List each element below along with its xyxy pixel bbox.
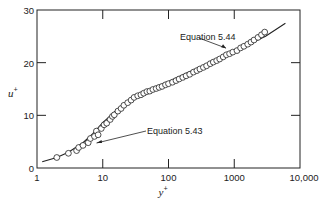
y-tick-labels: 0102030: [23, 5, 34, 174]
svg-text:y+: y+: [158, 185, 168, 198]
data-point: [262, 29, 268, 35]
y-tick-label: 10: [23, 110, 34, 121]
x-tick-label: 1: [34, 172, 39, 183]
data-point: [95, 132, 101, 138]
x-tick-label: 1000: [224, 172, 245, 183]
annotation-equation-5-44: Equation 5.44: [180, 32, 236, 42]
data-point: [54, 155, 60, 161]
y-tick-label: 0: [29, 163, 34, 174]
data-point: [66, 150, 72, 156]
svg-text:u+: u+: [8, 86, 18, 99]
x-tick-label: 10,000: [289, 172, 318, 183]
x-axis-label: y+: [158, 185, 168, 198]
x-tick-label: 10: [97, 172, 108, 183]
chart: 110100100010,000 0102030 Equation 5.44Eq…: [0, 0, 321, 203]
x-tick-label: 100: [161, 172, 177, 183]
y-tick-label: 30: [23, 5, 34, 16]
y-axis-label: u+: [8, 86, 18, 99]
x-tick-labels: 110100100010,000: [34, 172, 318, 183]
data-points: [54, 29, 268, 160]
y-tick-label: 20: [23, 58, 34, 69]
annotation-equation-5-43: Equation 5.43: [147, 126, 203, 136]
